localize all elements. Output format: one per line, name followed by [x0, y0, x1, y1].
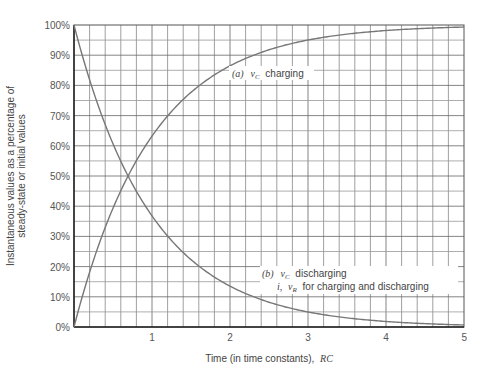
y-tick-label: 50%: [50, 171, 70, 182]
x-tick-label: 2: [227, 332, 233, 343]
y-tick-labels: 0%10%20%30%40%50%60%70%80%90%100%: [44, 20, 70, 333]
y-tick-label: 80%: [50, 80, 70, 91]
y-tick-label: 20%: [50, 262, 70, 273]
y-tick-label: 90%: [50, 50, 70, 61]
y-tick-label: 0%: [56, 322, 71, 333]
y-tick-label: 100%: [44, 20, 70, 31]
svg-text:steady-state or initial values: steady-state or initial values: [16, 114, 27, 237]
x-tick-labels: 12345: [149, 332, 467, 343]
rc-time-constant-chart: 0%10%20%30%40%50%60%70%80%90%100% 12345 …: [0, 0, 485, 371]
x-axis-label: Time (in time constants), RC: [205, 353, 333, 364]
x-tick-label: 4: [383, 332, 389, 343]
y-tick-label: 10%: [50, 292, 70, 303]
y-tick-label: 40%: [50, 201, 70, 212]
svg-text:Instantaneous values as a perc: Instantaneous values as a percentage of: [5, 86, 16, 266]
x-tick-label: 1: [149, 332, 155, 343]
x-tick-label: 3: [305, 332, 311, 343]
y-tick-label: 70%: [50, 111, 70, 122]
x-tick-label: 5: [461, 332, 467, 343]
y-tick-label: 60%: [50, 141, 70, 152]
y-axis-label: Instantaneous values as a percentage of …: [5, 86, 27, 266]
y-tick-label: 30%: [50, 231, 70, 242]
